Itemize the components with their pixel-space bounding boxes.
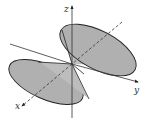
double-cone-figure: z y x (0, 0, 152, 128)
y-axis-label: y (133, 85, 140, 95)
x-axis-label: x (15, 101, 20, 111)
z-axis-label: z (63, 4, 69, 14)
